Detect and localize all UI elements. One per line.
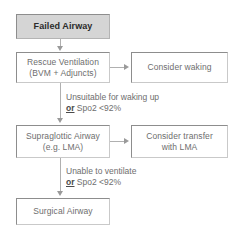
edge-label-unable-conjunction: or bbox=[66, 177, 75, 187]
connector-rescue-to-waking bbox=[110, 67, 125, 68]
edge-label-unable-line2: or Spo2 <92% bbox=[66, 177, 136, 188]
node-consider-transfer-sublabel: with LMA bbox=[146, 142, 213, 153]
node-surgical-airway-label: Surgical Airway bbox=[33, 206, 92, 217]
arrowhead-failed-to-rescue-icon bbox=[57, 46, 63, 51]
edge-label-unable-to-ventilate: Unable to ventilate or Spo2 <92% bbox=[66, 166, 136, 188]
edge-label-unable-condition: Spo2 <92% bbox=[75, 177, 122, 187]
node-supraglottic-airway-label: Supraglottic Airway bbox=[26, 131, 100, 141]
node-consider-transfer-label: Consider transfer bbox=[146, 131, 213, 141]
failed-airway-flowchart: Failed Airway Rescue Ventilation (BVM + … bbox=[0, 0, 235, 234]
edge-label-unsuitable-for-waking: Unsuitable for waking up or Spo2 <92% bbox=[66, 92, 159, 114]
node-supraglottic-airway[interactable]: Supraglottic Airway (e.g. LMA) bbox=[16, 125, 110, 158]
arrowhead-rescue-to-waking-icon bbox=[124, 64, 129, 70]
node-rescue-ventilation-sublabel: (BVM + Adjuncts) bbox=[27, 68, 99, 79]
edge-label-unsuitable-line1: Unsuitable for waking up bbox=[66, 92, 159, 103]
edge-label-unsuitable-condition: Spo2 <92% bbox=[75, 103, 122, 113]
arrowhead-supraglottic-to-surgical-icon bbox=[57, 191, 63, 196]
arrowhead-supraglottic-to-transfer-icon bbox=[124, 138, 129, 144]
node-supraglottic-airway-sublabel: (e.g. LMA) bbox=[26, 142, 100, 153]
node-failed-airway-label: Failed Airway bbox=[34, 21, 93, 32]
edge-label-unable-line1: Unable to ventilate bbox=[66, 166, 136, 177]
node-rescue-ventilation-label: Rescue Ventilation bbox=[27, 57, 99, 67]
node-consider-transfer[interactable]: Consider transfer with LMA bbox=[131, 125, 228, 158]
connector-rescue-to-supraglottic bbox=[60, 83, 61, 119]
node-failed-airway[interactable]: Failed Airway bbox=[16, 14, 110, 39]
node-surgical-airway[interactable]: Surgical Airway bbox=[16, 198, 110, 225]
connector-supraglottic-to-transfer bbox=[110, 141, 125, 142]
arrowhead-rescue-to-supraglottic-icon bbox=[57, 118, 63, 123]
node-rescue-ventilation[interactable]: Rescue Ventilation (BVM + Adjuncts) bbox=[16, 52, 110, 83]
edge-label-unsuitable-line2: or Spo2 <92% bbox=[66, 103, 159, 114]
node-consider-waking-label: Consider waking bbox=[147, 62, 211, 73]
node-consider-waking[interactable]: Consider waking bbox=[131, 52, 228, 83]
edge-label-unsuitable-conjunction: or bbox=[66, 103, 75, 113]
connector-supraglottic-to-surgical bbox=[60, 158, 61, 192]
